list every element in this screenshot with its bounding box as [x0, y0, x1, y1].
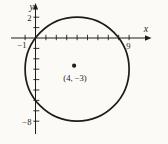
y-tick-label-neg8: −8	[22, 117, 31, 127]
x-axis: x −1 9	[11, 23, 152, 51]
circle-graph: (4, −3) x −1 9 y 2 −8	[0, 0, 168, 144]
center-point-label: (4, −3)	[63, 73, 87, 83]
center-point	[72, 64, 76, 68]
y-tick-label-2: 2	[27, 13, 31, 23]
x-tick-label-neg1: −1	[17, 40, 26, 50]
circle-curve	[25, 17, 129, 121]
x-tick-label-9: 9	[126, 41, 130, 51]
x-axis-arrow-icon	[145, 35, 152, 40]
y-axis-ticks	[33, 17, 39, 121]
y-axis-label: y	[29, 1, 35, 12]
x-axis-label: x	[143, 23, 149, 34]
figure-page: (4, −3) x −1 9 y 2 −8	[0, 0, 168, 144]
